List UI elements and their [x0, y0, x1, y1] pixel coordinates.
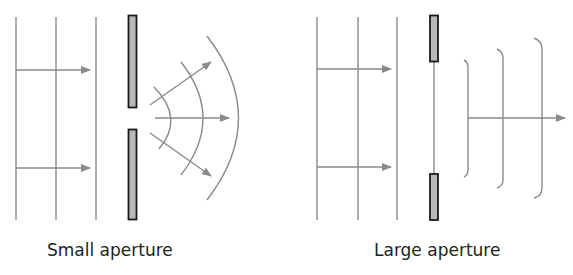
barrier-bottom	[430, 174, 438, 220]
barrier-top	[129, 16, 137, 108]
incident-wavefronts	[16, 17, 96, 220]
diffraction-diagram	[0, 0, 573, 275]
incident-rays	[317, 69, 391, 167]
diffracted-rays	[150, 62, 229, 176]
barrier-bottom	[129, 130, 137, 220]
incident-wavefronts	[317, 17, 397, 220]
barrier	[129, 16, 137, 220]
incident-rays	[16, 70, 90, 168]
small-aperture-panel	[16, 16, 239, 221]
barrier	[430, 16, 438, 221]
barrier-top	[430, 16, 438, 62]
large-aperture-panel	[317, 16, 565, 221]
small-aperture-caption: Small aperture	[47, 240, 173, 260]
large-aperture-caption: Large aperture	[374, 240, 500, 260]
